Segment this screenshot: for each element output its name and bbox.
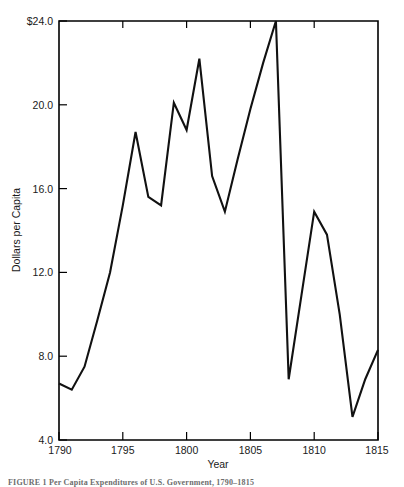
x-tick-label-1810: 1810: [303, 444, 327, 456]
plot-frame: [59, 21, 378, 440]
x-tick-label-1815: 1815: [365, 444, 389, 456]
y-axis-ticks: [59, 21, 67, 440]
y-axis-title: Dollars per Capita: [10, 188, 22, 272]
x-tick-label-1805: 1805: [239, 444, 263, 456]
figure-caption: FIGURE 1 Per Capita Expenditures of U.S.…: [8, 478, 398, 487]
y-tick-label-12: 12.0: [33, 266, 54, 278]
x-tick-label-1795: 1795: [111, 444, 135, 456]
y-tick-label-24: $24.0: [27, 15, 53, 27]
y-tick-labels: $24.0 20.0 16.0 12.0 8.0 4.0: [27, 15, 53, 446]
y-tick-label-16: 16.0: [33, 183, 54, 195]
x-tick-label-1790: 1790: [48, 444, 72, 456]
y-tick-label-20: 20.0: [33, 99, 54, 111]
line-chart: $24.0 20.0 16.0 12.0 8.0 4.0 1790 1795 1…: [0, 0, 404, 470]
data-series-line: [59, 21, 378, 417]
axis-box: [59, 21, 378, 440]
x-tick-labels: 1790 1795 1800 1805 1810 1815: [48, 444, 389, 456]
y-tick-label-8: 8.0: [38, 350, 53, 362]
x-axis-title: Year: [207, 458, 229, 470]
x-axis-ticks: [59, 21, 378, 440]
x-tick-label-1800: 1800: [175, 444, 199, 456]
